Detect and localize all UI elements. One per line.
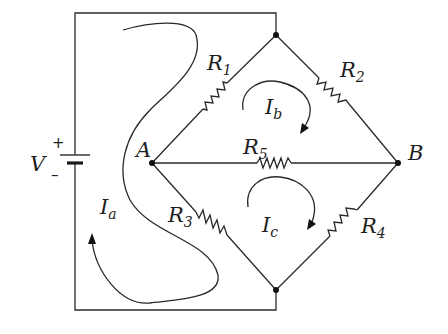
r3-label: R3 bbox=[167, 203, 193, 230]
r5-label: R5 bbox=[242, 135, 268, 162]
node-b-label: B bbox=[407, 141, 423, 165]
battery-plus-sign: + bbox=[52, 134, 65, 152]
ib-label: Ib bbox=[264, 95, 282, 122]
r2-label: R2 bbox=[339, 58, 365, 85]
junction-top bbox=[273, 32, 279, 38]
battery-minus-sign: – bbox=[51, 166, 59, 184]
voltage-label: V bbox=[30, 152, 47, 176]
ic-label: Ic bbox=[261, 213, 278, 240]
node-a-label: A bbox=[134, 138, 151, 162]
r4-label: R4 bbox=[360, 214, 386, 241]
junction-bottom bbox=[273, 287, 279, 293]
ib-arrowhead bbox=[300, 123, 309, 134]
outer-wiring bbox=[75, 13, 276, 310]
resistor-r5 bbox=[152, 158, 398, 168]
r1-label: R1 bbox=[206, 51, 232, 78]
resistor-r2 bbox=[276, 35, 398, 163]
ia-label: Ia bbox=[99, 195, 117, 222]
battery-icon bbox=[60, 155, 90, 163]
mesh-current-c-arrow-icon bbox=[248, 177, 315, 222]
ic-arrowhead bbox=[307, 219, 316, 230]
ia-arrowhead bbox=[88, 233, 96, 244]
circuit-diagram: + – V R1 R2 R5 R3 R4 A B bbox=[0, 0, 448, 334]
junction-b bbox=[395, 160, 401, 166]
